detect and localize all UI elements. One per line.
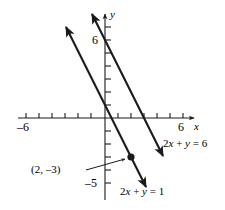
eq1-rhs: 1 [159,185,165,197]
y-axis-tick-label-6: 6 [92,34,98,46]
eq1-x: x [126,185,131,197]
eq1-y: y [142,185,147,197]
y-axis-tick-label-neg5: –5 [85,177,97,189]
eq1-plus: + [133,185,139,197]
graph-figure [0,0,225,210]
plotted-point-2-neg3 [127,153,134,160]
line-label-2x-plus-y-eq-1: 2x + y = 1 [120,186,164,197]
eq6-rhs: 6 [202,137,208,149]
line-label-2x-plus-y-eq-6: 2x + y = 6 [163,138,207,149]
eq6-x: x [169,137,174,149]
x-axis-tick-label-6: 6 [178,121,184,133]
x-axis [18,113,194,118]
graph-line-2x-plus-y-eq-1 [66,27,146,187]
eq6-y: y [185,137,190,149]
graph-line-2x-plus-y-eq-6 [92,14,163,156]
eq6-equals: = [193,137,199,149]
eq1-equals: = [150,185,156,197]
x-axis-tick-label-neg6: –6 [17,121,29,133]
point-label-2-neg3: (2, –3) [31,164,60,175]
y-axis-label: y [110,9,115,20]
x-axis-label: x [194,121,199,132]
eq6-plus: + [176,137,182,149]
